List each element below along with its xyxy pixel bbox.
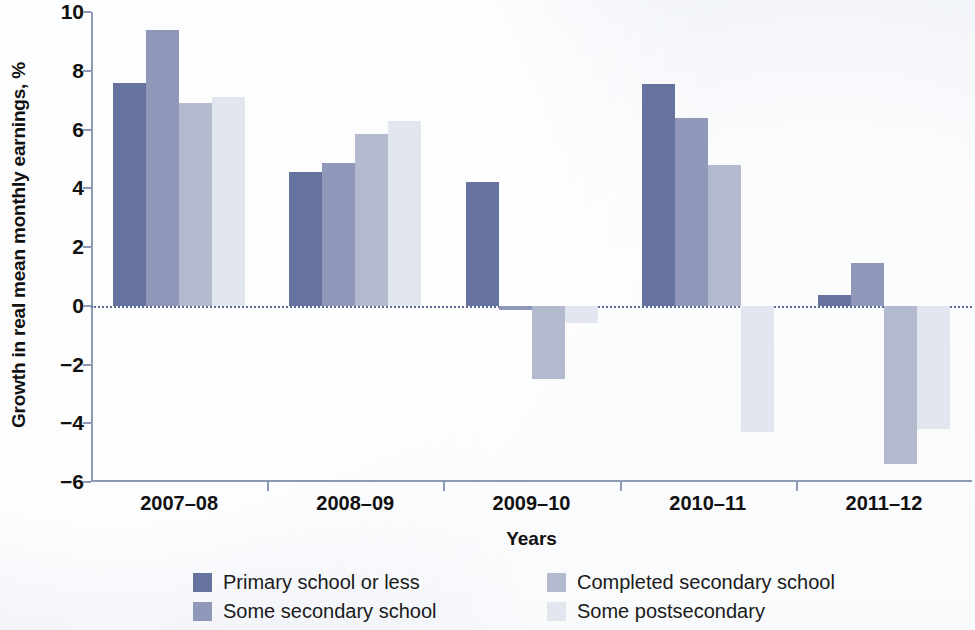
bar	[212, 97, 245, 306]
bar	[113, 83, 146, 306]
y-tick-label: 0	[40, 294, 84, 318]
bar	[851, 263, 884, 306]
bar	[884, 306, 917, 465]
legend-item[interactable]: Some secondary school	[193, 597, 537, 626]
chart-legend: Primary school or lessSome secondary sch…	[193, 568, 953, 626]
x-axis-line	[91, 480, 972, 482]
legend-swatch-icon	[193, 573, 212, 592]
bar	[146, 30, 179, 306]
bar	[708, 165, 741, 306]
bar	[642, 84, 675, 306]
x-tick-label: 2008–09	[316, 492, 394, 515]
legend-swatch-icon	[547, 602, 566, 621]
y-axis-tick-labels: 1086420−2−4−6	[36, 12, 84, 482]
y-tick-mark	[83, 246, 91, 248]
bar	[818, 295, 851, 305]
y-tick-label: −4	[40, 411, 84, 435]
x-tick-label: 2007–08	[140, 492, 218, 515]
x-axis-title: Years	[91, 528, 972, 550]
bar	[499, 306, 532, 310]
bar	[388, 121, 421, 306]
y-axis-title: Growth in real mean monthly earnings, %	[2, 0, 36, 490]
bar-chart: Growth in real mean monthly earnings, % …	[0, 0, 975, 630]
x-tick-label: 2010–11	[669, 492, 746, 515]
x-tick-mark	[443, 482, 445, 491]
bar	[675, 118, 708, 306]
y-tick-label: 8	[40, 59, 84, 83]
y-tick-mark	[83, 70, 91, 72]
bar	[179, 103, 212, 306]
y-tick-mark	[83, 305, 91, 307]
legend-label: Some postsecondary	[577, 600, 765, 623]
bar	[355, 134, 388, 306]
legend-item[interactable]: Completed secondary school	[547, 568, 953, 597]
y-tick-label: 10	[40, 0, 84, 24]
legend-label: Some secondary school	[223, 600, 436, 623]
y-tick-label: 6	[40, 118, 84, 142]
y-tick-mark	[83, 422, 91, 424]
bar	[917, 306, 950, 429]
bar	[466, 182, 499, 305]
y-tick-mark	[83, 481, 91, 483]
legend-item[interactable]: Primary school or less	[193, 568, 537, 597]
y-tick-label: 4	[40, 176, 84, 200]
y-tick-mark	[83, 129, 91, 131]
bar	[289, 172, 322, 306]
y-tick-label: −2	[40, 353, 84, 377]
legend-swatch-icon	[547, 573, 566, 592]
legend-label: Completed secondary school	[577, 571, 835, 594]
bar	[322, 163, 355, 305]
x-tick-mark	[620, 482, 622, 491]
y-tick-label: 2	[40, 235, 84, 259]
legend-item[interactable]: Some postsecondary	[547, 597, 953, 626]
y-axis-line	[91, 12, 93, 482]
legend-swatch-icon	[193, 602, 212, 621]
y-tick-mark	[83, 11, 91, 13]
y-tick-label: −6	[40, 470, 84, 494]
x-tick-mark	[796, 482, 798, 491]
x-axis-tick-labels: 2007–082008–092009–102010–112011–12	[91, 492, 972, 522]
bar	[565, 306, 598, 324]
legend-label: Primary school or less	[223, 571, 420, 594]
y-axis-title-text: Growth in real mean monthly earnings, %	[8, 62, 30, 428]
bar	[532, 306, 565, 379]
bar	[741, 306, 774, 432]
y-tick-mark	[83, 187, 91, 189]
x-tick-label: 2009–10	[493, 492, 571, 515]
x-tick-label: 2011–12	[846, 492, 923, 515]
plot-area	[91, 12, 972, 482]
y-tick-mark	[83, 364, 91, 366]
x-tick-mark	[267, 482, 269, 491]
